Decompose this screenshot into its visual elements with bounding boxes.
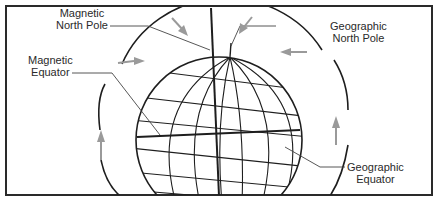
label-line: North Pole [330,32,387,44]
field-direction-arrows [97,17,340,160]
arrow-icon [172,18,188,36]
arrow-icon [97,130,105,160]
label-line: Equator [28,66,73,78]
label-line: Magnetic [56,7,108,19]
field-line-outer [99,0,348,196]
label-magnetic-equator: Magnetic Equator [28,54,73,78]
label-geographic-equator: Geographic Equator [347,161,404,185]
geographic-axis-stub [230,43,231,57]
arrow-icon [239,17,252,34]
leader-lines [72,26,345,167]
magnetic-axis-line [211,8,219,196]
label-geographic-north-pole: Geographic North Pole [330,20,387,44]
label-line: North Pole [56,19,108,31]
label-magnetic-north-pole: Magnetic North Pole [56,7,108,31]
label-line: Geographic [330,20,387,32]
label-line: Geographic [347,161,404,173]
label-line: Equator [347,173,404,185]
arrow-icon [280,48,307,56]
label-line: Magnetic [28,54,73,66]
arrow-icon [332,116,340,145]
